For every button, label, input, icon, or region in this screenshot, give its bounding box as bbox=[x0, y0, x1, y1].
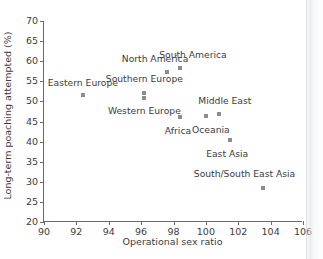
x-axis-tick bbox=[206, 221, 207, 225]
x-axis-tick-label: 106 bbox=[294, 227, 312, 237]
x-axis-tick-label: 94 bbox=[103, 227, 115, 237]
y-axis-tick bbox=[40, 41, 44, 42]
x-axis-title: Operational sex ratio bbox=[43, 237, 302, 247]
data-point-label: Africa bbox=[165, 126, 191, 135]
data-point-label: East Asia bbox=[206, 149, 248, 158]
x-axis-tick bbox=[174, 221, 175, 225]
y-axis-tick-label: 20 bbox=[26, 217, 38, 227]
y-axis-tick bbox=[40, 61, 44, 62]
data-point-label: Southern Europe bbox=[106, 74, 183, 83]
y-axis-tick-label: 35 bbox=[26, 157, 38, 167]
x-axis-tick-label: 102 bbox=[229, 227, 247, 237]
y-axis-tick bbox=[40, 122, 44, 123]
y-axis-tick-label: 50 bbox=[26, 97, 38, 107]
plot-area: 2025303540455055606570909294969810010210… bbox=[43, 21, 302, 222]
data-point-label: South America bbox=[159, 50, 227, 59]
y-axis-tick bbox=[40, 142, 44, 143]
y-axis-tick-label: 70 bbox=[26, 16, 38, 26]
data-point-marker[interactable] bbox=[228, 138, 232, 142]
data-point-marker[interactable] bbox=[261, 186, 265, 190]
data-point-marker[interactable] bbox=[165, 70, 169, 74]
y-axis-tick-label: 30 bbox=[26, 177, 38, 187]
scan-artifact-line bbox=[310, 0, 311, 259]
x-axis-tick bbox=[44, 221, 45, 225]
data-point-marker[interactable] bbox=[142, 91, 146, 95]
x-axis-tick-label: 90 bbox=[38, 227, 50, 237]
data-point-marker[interactable] bbox=[178, 115, 182, 119]
scatter-plot-figure: 2025303540455055606570909294969810010210… bbox=[0, 0, 323, 259]
x-axis-tick bbox=[271, 221, 272, 225]
scan-artifact-line bbox=[306, 0, 307, 259]
data-point-label: Middle East bbox=[198, 97, 251, 106]
y-axis-tick-label: 60 bbox=[26, 56, 38, 66]
data-point-marker[interactable] bbox=[142, 96, 146, 100]
data-point-marker[interactable] bbox=[178, 66, 182, 70]
y-axis-tick bbox=[40, 81, 44, 82]
scan-artifact bbox=[306, 0, 323, 259]
data-point-label: South/South East Asia bbox=[194, 170, 295, 179]
y-axis-tick bbox=[40, 162, 44, 163]
y-axis-tick-label: 25 bbox=[26, 197, 38, 207]
y-axis-tick-label: 55 bbox=[26, 77, 38, 87]
x-axis-tick bbox=[109, 221, 110, 225]
data-point-marker[interactable] bbox=[204, 114, 208, 118]
x-axis-tick-label: 104 bbox=[262, 227, 280, 237]
x-axis-tick bbox=[238, 221, 239, 225]
y-axis-tick bbox=[40, 21, 44, 22]
y-axis-tick-label: 45 bbox=[26, 117, 38, 127]
x-axis-tick-label: 92 bbox=[70, 227, 82, 237]
x-axis-tick bbox=[303, 221, 304, 225]
x-axis-tick bbox=[141, 221, 142, 225]
y-axis-tick-label: 65 bbox=[26, 36, 38, 46]
y-axis-tick bbox=[40, 182, 44, 183]
x-axis-tick bbox=[76, 221, 77, 225]
data-point-marker[interactable] bbox=[217, 112, 221, 116]
data-point-label: Oceania bbox=[192, 126, 230, 135]
data-point-marker[interactable] bbox=[81, 93, 85, 97]
data-point-label: Western Europe bbox=[108, 107, 181, 116]
y-axis-tick bbox=[40, 101, 44, 102]
y-axis-tick-label: 40 bbox=[26, 137, 38, 147]
y-axis-title: Long-term poaching attempted (%) bbox=[3, 0, 17, 245]
y-axis-tick bbox=[40, 202, 44, 203]
